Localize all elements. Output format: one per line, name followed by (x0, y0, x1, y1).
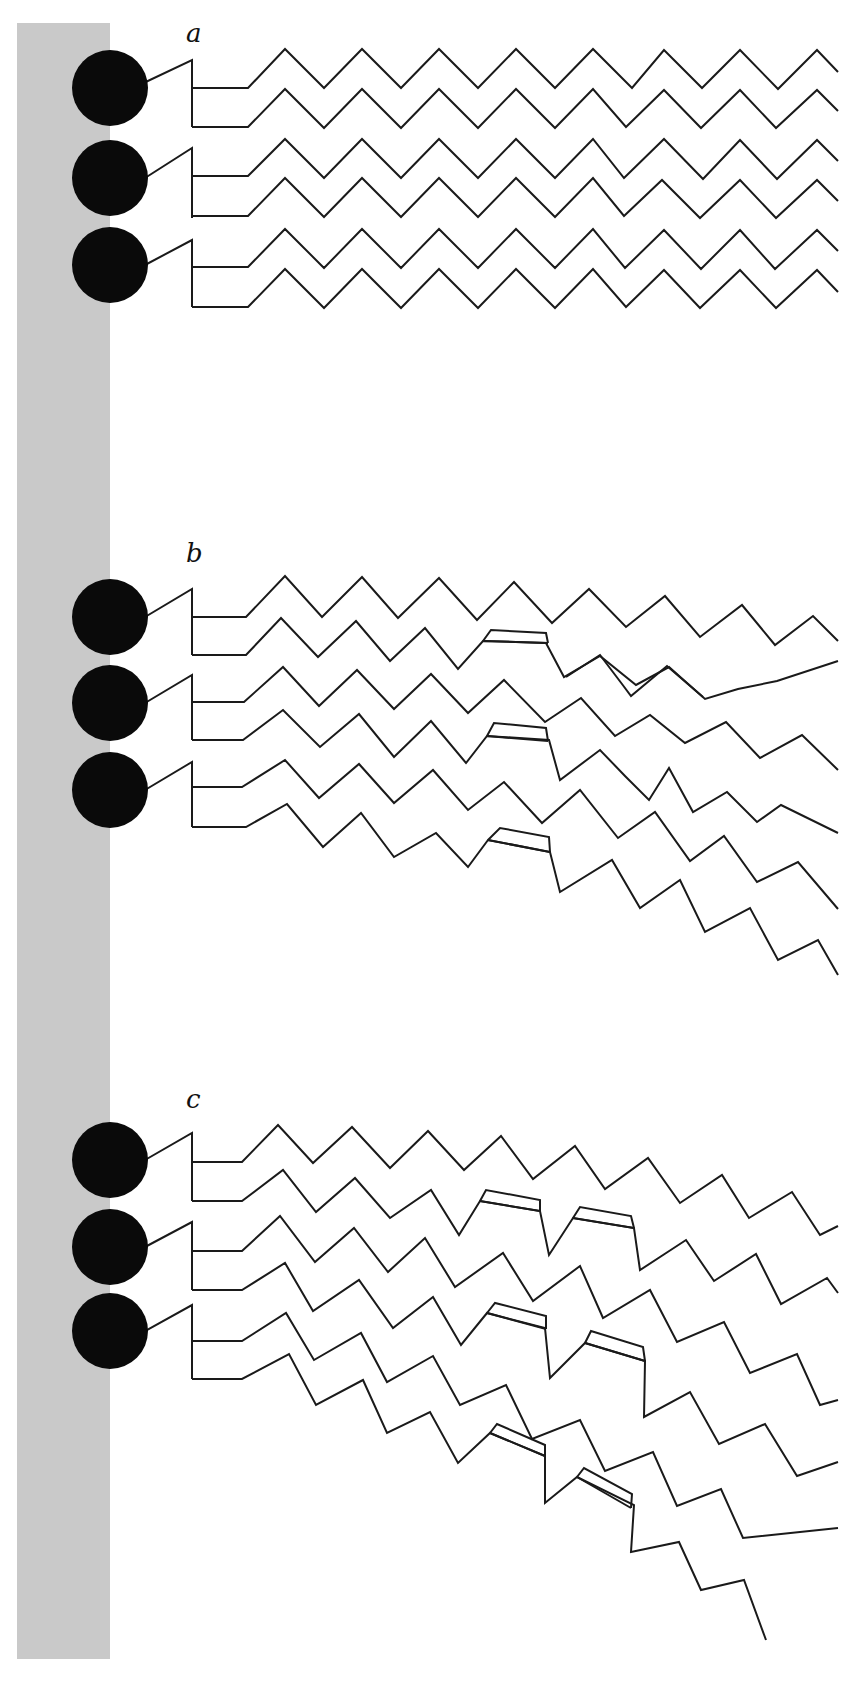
panel-c-lipid-2-tail-1 (192, 1216, 838, 1405)
panel-b-lipid-3-tail-2-cis-double-bond-1-inner (488, 840, 550, 852)
panel-b-lipid-1-tail-2 (192, 618, 838, 699)
panel-c-lipid-3-tail-1 (192, 1313, 838, 1538)
panel-b-lipid-3-tail-2 (192, 804, 838, 975)
panel-a-lipid-1-tail-1 (192, 49, 838, 89)
panel-c-lipid-1-tail-1 (192, 1125, 838, 1235)
panel-c-lipid-2-polar-head (72, 1209, 148, 1285)
panel-c-lipid-1-tail-2 (192, 1170, 838, 1304)
panel-a-lipid-3-tail-2 (192, 269, 838, 308)
panel-b-lipid-3-glycerol-link (145, 762, 192, 827)
panel-label-a: a (186, 20, 202, 46)
panel-a-lipid-2-tail-2 (192, 178, 838, 218)
panel-c-lipid-1-tail-2-cis-double-bond-1-outer (480, 1190, 540, 1211)
panel-c-lipid-1-glycerol-link (145, 1133, 192, 1201)
panel-b-lipid-1-tail-3 (566, 655, 703, 697)
panel-a-lipid-3-tail-1 (192, 229, 838, 269)
panel-b-lipid-2-polar-head (72, 665, 148, 741)
panel-b-lipid-1-tail-1 (192, 576, 838, 645)
panel-a-lipid-3-polar-head (72, 227, 148, 303)
panel-a-lipid-2-polar-head (72, 140, 148, 216)
panel-a-lipid-3-glycerol-link (145, 240, 192, 307)
panel-a-lipid-1-tail-2 (192, 89, 838, 128)
panel-b-lipid-3-polar-head (72, 752, 148, 828)
panel-c-lipid-3-polar-head (72, 1293, 148, 1369)
panel-c-lipid-2-glycerol-link (145, 1222, 192, 1290)
panel-c-lipid-3-tail-2-cis-double-bond-2-inner (577, 1477, 631, 1508)
panel-c-lipid-2-tail-2-cis-double-bond-1-inner (487, 1313, 546, 1329)
panel-b-lipid-2-tail-2 (192, 710, 838, 833)
panel-c-lipid-3-glycerol-link (145, 1305, 192, 1379)
panel-b-lipid-2-tail-1 (192, 667, 838, 770)
panel-a-lipid-2-tail-1 (192, 139, 838, 179)
panel-b-lipid-2-glycerol-link (145, 675, 192, 740)
panel-label-b: b (186, 540, 203, 566)
panel-a-lipid-1-polar-head (72, 50, 148, 126)
chains-layer (133, 49, 838, 1640)
membrane-diagram: a b c (0, 0, 863, 1684)
panel-c-lipid-3-tail-2-cis-double-bond-1-outer (490, 1424, 545, 1456)
heads-layer (72, 50, 148, 1369)
panel-c-lipid-3-tail-2-cis-double-bond-2-outer (577, 1468, 632, 1508)
panel-b-lipid-3-tail-2-cis-double-bond-1-outer (488, 828, 550, 852)
panel-b-lipid-1-glycerol-link (145, 589, 192, 655)
panel-c-lipid-1-tail-2-cis-double-bond-1-inner (480, 1201, 540, 1211)
panel-c-lipid-1-polar-head (72, 1122, 148, 1198)
panel-c-lipid-1-tail-2-cis-double-bond-2-inner (573, 1218, 634, 1228)
diagram-canvas (0, 0, 863, 1684)
panel-b-lipid-1-polar-head (72, 579, 148, 655)
panel-a-lipid-2-glycerol-link (145, 148, 192, 218)
panel-b-lipid-3-tail-1 (192, 760, 838, 909)
panel-b-lipid-1-tail-2-cis-double-bond-1-inner (483, 641, 548, 643)
panel-c-lipid-1-tail-2-cis-double-bond-2-outer (573, 1207, 634, 1228)
panel-label-c: c (186, 1086, 201, 1112)
